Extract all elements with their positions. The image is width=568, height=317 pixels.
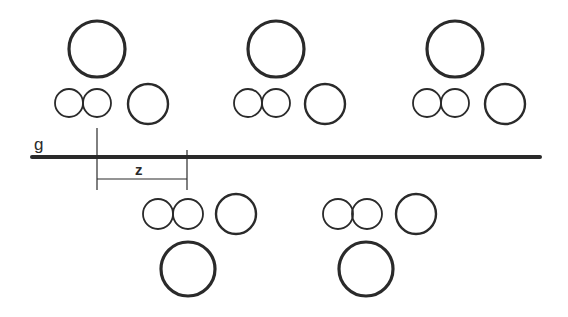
large-circle [161, 242, 215, 296]
large-circle [427, 21, 483, 77]
small-pair-circle [352, 199, 382, 229]
medium-circle [485, 84, 525, 124]
small-pair-circle [83, 89, 111, 117]
translation-label: z [135, 161, 143, 178]
small-pair-circle [143, 199, 173, 229]
small-pair-circle [323, 199, 353, 229]
small-pair-circle [441, 89, 469, 117]
medium-circle [396, 194, 436, 234]
glide-line-label: g [34, 135, 43, 154]
small-pair-circle [262, 89, 290, 117]
medium-circle [305, 84, 345, 124]
large-circle [69, 21, 125, 77]
small-pair-circle [173, 199, 203, 229]
large-circle [339, 242, 393, 296]
small-pair-circle [55, 89, 83, 117]
glide-reflection-diagram: g z [0, 0, 568, 317]
medium-circle [128, 84, 168, 124]
medium-circle [216, 194, 256, 234]
small-pair-circle [234, 89, 262, 117]
large-circle [248, 21, 304, 77]
small-pair-circle [413, 89, 441, 117]
